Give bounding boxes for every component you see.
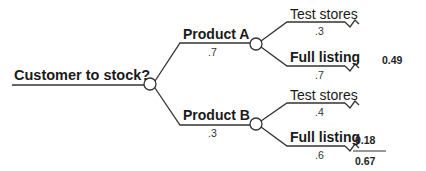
product-a-branch-line — [155, 43, 250, 81]
b-full-listing-probability: .6 — [315, 150, 324, 161]
a-full-listing-zigzag-icon — [345, 64, 359, 71]
product-a-probability: .7 — [208, 47, 217, 58]
b-test-stores-line — [261, 103, 345, 121]
a-full-listing-value: 0.49 — [382, 55, 402, 66]
a-test-stores-line — [261, 22, 345, 41]
b-test-stores-probability: .4 — [315, 107, 324, 118]
product-a-chance-node — [250, 38, 262, 50]
root-decision-label: Customer to stock? — [14, 68, 150, 83]
total-value: 0.67 — [355, 156, 375, 167]
b-full-listing-label: Full listing — [290, 130, 360, 144]
product-b-probability: .3 — [208, 128, 217, 139]
product-a-label: Product A — [183, 27, 249, 41]
b-full-listing-value: 0.18 — [355, 135, 375, 146]
product-b-chance-node — [250, 118, 262, 130]
a-test-stores-probability: .3 — [315, 26, 324, 37]
a-test-stores-label: Test stores — [290, 7, 358, 21]
product-b-label: Product B — [183, 108, 250, 122]
a-full-listing-probability: .7 — [315, 70, 324, 81]
a-full-listing-label: Full listing — [290, 50, 360, 64]
b-test-stores-label: Test stores — [290, 88, 358, 102]
